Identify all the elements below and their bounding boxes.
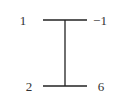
bottom-left-label: 2 (26, 80, 33, 93)
diagram-canvas: 1 −1 2 6 (0, 0, 114, 96)
top-left-label: 1 (20, 14, 27, 27)
bottom-right-label: 6 (98, 80, 105, 93)
top-right-label: −1 (93, 14, 107, 27)
